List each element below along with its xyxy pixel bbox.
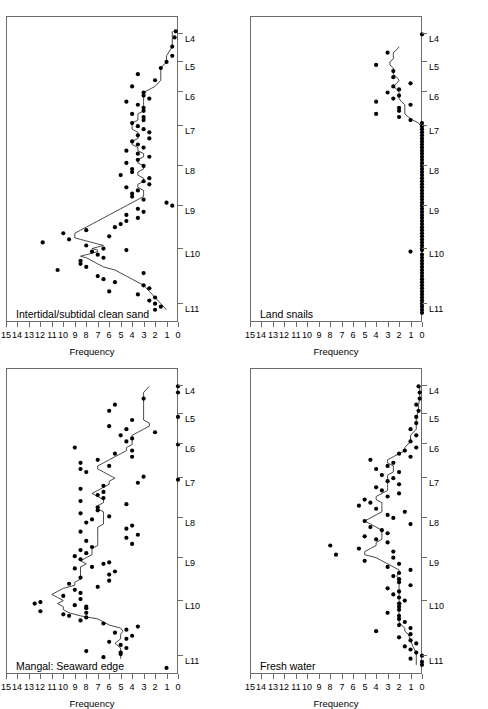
- y-axis-tick: [307, 674, 308, 679]
- data-point: [380, 528, 384, 532]
- y-axis-tick: [121, 322, 122, 327]
- x-axis-tick-label: L11: [429, 656, 443, 666]
- y-axis-tick-label: 2: [153, 330, 158, 340]
- data-point: [124, 149, 128, 153]
- y-axis-tick: [75, 674, 76, 679]
- y-axis-tick-label: 3: [141, 330, 146, 340]
- data-point: [84, 539, 88, 543]
- y-axis-tick: [388, 674, 389, 679]
- data-point: [408, 626, 412, 630]
- x-axis-tick: [422, 557, 427, 558]
- data-point: [113, 569, 117, 573]
- x-axis-tick: [178, 165, 183, 166]
- data-point: [363, 519, 367, 523]
- data-point: [403, 644, 407, 648]
- data-point: [391, 550, 395, 554]
- y-axis-tick: [29, 322, 30, 327]
- data-point: [107, 572, 111, 576]
- data-point: [107, 424, 111, 428]
- data-point: [113, 452, 117, 456]
- y-axis-tick: [422, 674, 423, 679]
- y-axis-tick: [273, 322, 274, 327]
- y-axis-tick-label: 6: [351, 330, 356, 340]
- x-axis-tick: [422, 477, 427, 478]
- data-point: [159, 66, 163, 70]
- data-point: [414, 415, 418, 419]
- y-axis-tick: [29, 674, 30, 679]
- y-axis-tick-label: 5: [118, 682, 123, 692]
- y-axis-tick: [6, 322, 7, 327]
- data-point: [391, 97, 395, 101]
- data-point: [374, 467, 378, 471]
- x-axis-tick: [178, 477, 183, 478]
- y-axis-tick: [399, 674, 400, 679]
- data-point: [38, 600, 42, 604]
- data-point: [397, 571, 401, 575]
- y-axis-title: Frequency: [70, 698, 115, 709]
- data-point: [391, 84, 395, 88]
- y-axis-tick-label: 0: [175, 682, 180, 692]
- data-point: [136, 188, 140, 192]
- data-point: [414, 403, 418, 407]
- plot-data-layer: [250, 368, 422, 674]
- data-point: [397, 562, 401, 566]
- x-axis-tick-label: L9: [185, 558, 195, 568]
- panel-title: Intertidal/subtidal clean sand: [16, 308, 149, 320]
- x-axis-tick-label: L9: [185, 206, 195, 216]
- data-point: [130, 523, 134, 527]
- data-point: [84, 243, 88, 247]
- y-axis-tick-label: 13: [24, 330, 34, 340]
- y-axis-tick: [17, 322, 18, 327]
- data-point: [142, 271, 146, 275]
- data-point: [408, 647, 412, 651]
- data-point: [119, 222, 123, 226]
- x-axis-tick-label: L9: [429, 206, 439, 216]
- data-point: [107, 514, 111, 518]
- data-point: [397, 589, 401, 593]
- x-axis-tick-label: L8: [429, 166, 439, 176]
- data-point: [84, 265, 88, 269]
- y-axis-tick-label: 9: [72, 330, 77, 340]
- y-axis-tick-label: 3: [385, 682, 390, 692]
- y-axis-tick-label: 5: [118, 330, 123, 340]
- x-axis-tick-label: L4: [185, 34, 195, 44]
- data-point: [113, 631, 117, 635]
- data-point: [176, 478, 180, 482]
- data-point: [408, 638, 412, 642]
- data-point: [164, 201, 168, 205]
- data-point: [408, 118, 412, 122]
- data-point: [136, 158, 140, 162]
- y-axis-tick: [307, 322, 308, 327]
- x-axis-tick-label: L6: [429, 93, 439, 103]
- data-point: [136, 207, 140, 211]
- x-axis-tick-label: L10: [185, 249, 200, 259]
- panel-land-snails: L11L10L9L8L7L6L5L41514131211109876543210…: [244, 0, 488, 352]
- data-point: [414, 650, 418, 654]
- data-point: [38, 609, 42, 613]
- y-axis-tick-label: 12: [35, 682, 45, 692]
- data-point: [130, 436, 134, 440]
- data-point: [418, 397, 422, 401]
- data-point: [153, 295, 157, 299]
- data-point: [153, 308, 157, 312]
- data-point: [386, 51, 390, 55]
- y-axis-tick: [273, 674, 274, 679]
- x-axis-tick-label: L6: [185, 445, 195, 455]
- x-axis-tick-label: L4: [429, 386, 439, 396]
- data-point: [403, 510, 407, 514]
- x-axis-tick: [178, 385, 183, 386]
- y-axis-tick-label: 13: [268, 682, 278, 692]
- data-point: [391, 476, 395, 480]
- data-point: [136, 481, 140, 485]
- x-axis-tick: [178, 205, 183, 206]
- data-point: [78, 548, 82, 552]
- data-point: [397, 115, 401, 119]
- data-point: [124, 427, 128, 431]
- data-point: [113, 280, 117, 284]
- x-axis-tick-label: L10: [429, 601, 444, 611]
- y-axis-tick: [330, 674, 331, 679]
- data-point: [73, 566, 77, 570]
- data-point: [96, 274, 100, 278]
- x-axis-tick: [422, 385, 427, 386]
- y-axis-tick-label: 7: [95, 682, 100, 692]
